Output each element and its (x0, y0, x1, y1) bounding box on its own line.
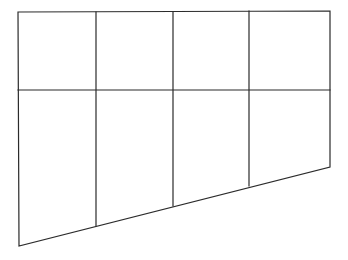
grid-diagram (0, 0, 348, 260)
outer-quadrilateral (18, 11, 330, 246)
